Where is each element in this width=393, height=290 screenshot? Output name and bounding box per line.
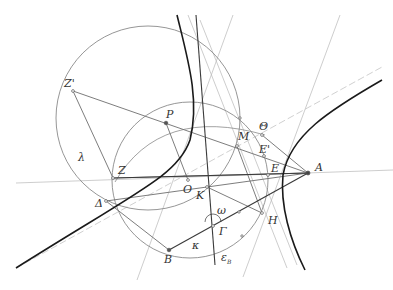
hyperbola-left-branch: [16, 15, 194, 268]
label-O: O: [183, 183, 192, 196]
geometry-figure: A O K P Z' Z Δ B Γ E E' M Θ H λ κ ω ε B: [0, 0, 393, 290]
point-H: [261, 212, 264, 215]
label-E: E: [270, 162, 279, 175]
label-Ep: E': [258, 143, 270, 156]
point-Delta: [105, 200, 108, 203]
label-B: B: [163, 253, 172, 266]
label-Z: Z: [117, 164, 126, 177]
label-Gamma: Γ: [218, 225, 227, 238]
label-kappa: κ: [191, 239, 200, 252]
label-lambda: λ: [77, 151, 85, 164]
dark-segments: [113, 15, 308, 265]
label-omega: ω: [217, 204, 226, 217]
label-K: K: [195, 189, 205, 202]
label-P: P: [165, 108, 174, 121]
label-H: H: [267, 214, 278, 227]
label-Zp: Z': [63, 77, 75, 90]
label-A: A: [314, 161, 323, 174]
point-E: [267, 174, 270, 177]
label-Delta: Δ: [94, 197, 103, 210]
light-construction-lines: [16, 15, 393, 280]
point-Zp: [72, 90, 75, 93]
point-Theta: [261, 134, 264, 137]
point-A: [306, 171, 310, 175]
point-M: [236, 145, 239, 148]
circle-lambda: [56, 26, 240, 210]
point-aux3: [239, 117, 241, 119]
label-epsilon-sub: B: [226, 258, 232, 265]
label-M: M: [237, 130, 250, 143]
point-aux2: [241, 235, 243, 237]
point-O: [187, 179, 190, 182]
point-Z: [112, 177, 115, 180]
point-P: [164, 121, 168, 125]
point-B: [167, 248, 171, 252]
circle-kappa: [112, 102, 268, 258]
point-aux1: [238, 211, 240, 213]
label-Theta: Θ: [259, 120, 268, 133]
point-Gamma: [212, 225, 215, 228]
point-K: [206, 186, 209, 189]
hyperbola-right-branch: [282, 80, 382, 270]
